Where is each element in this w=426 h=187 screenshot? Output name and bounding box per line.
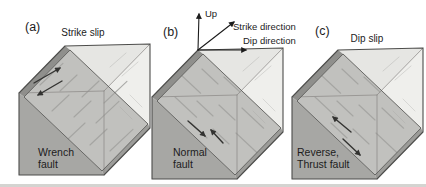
dip-axis-label: Dip direction <box>243 35 296 46</box>
wrench-fault-label-line1: Wrench <box>38 146 74 158</box>
panel-a-letter: (a) <box>25 20 40 34</box>
strike-axis-label: Strike direction <box>233 21 296 32</box>
fault-types-diagram: (a) Strike slip (b) Up Strike direction … <box>0 0 426 187</box>
panel-c-caption: Dip slip <box>351 33 384 44</box>
page-edge <box>0 184 426 187</box>
panel-c-letter: (c) <box>315 24 330 38</box>
reverse-fault-label-line2: Thrust fault <box>297 158 350 170</box>
reverse-fault-label-line1: Reverse, <box>297 146 339 158</box>
normal-fault-label-line2: fault <box>173 158 193 170</box>
wrench-fault-label-line2: fault <box>38 158 58 170</box>
normal-fault-label-line1: Normal <box>173 146 207 158</box>
figure-canvas: (a) Strike slip (b) Up Strike direction … <box>0 0 426 187</box>
panel-b-letter: (b) <box>163 25 178 39</box>
panel-a-caption: Strike slip <box>61 27 105 38</box>
up-axis-label: Up <box>205 8 217 19</box>
